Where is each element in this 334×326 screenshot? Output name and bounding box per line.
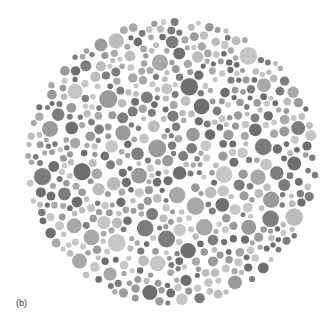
plate-dot bbox=[118, 99, 127, 108]
plate-dot bbox=[73, 183, 80, 190]
plate-dot bbox=[33, 154, 39, 160]
plate-dot bbox=[127, 64, 134, 71]
plate-dot bbox=[169, 187, 185, 203]
plate-dot bbox=[230, 235, 237, 242]
plate-dot bbox=[218, 185, 230, 197]
plate-dot bbox=[222, 226, 229, 233]
plate-dot bbox=[143, 53, 148, 58]
plate-dot bbox=[35, 113, 43, 121]
plate-dot bbox=[192, 51, 203, 62]
plate-dot bbox=[295, 178, 303, 186]
plate-dot bbox=[141, 60, 148, 67]
plate-dot bbox=[59, 169, 65, 175]
plate-dot bbox=[228, 47, 234, 53]
plate-dot bbox=[105, 191, 111, 197]
plate-dot bbox=[191, 162, 196, 167]
plate-dot bbox=[95, 112, 103, 120]
plate-dot bbox=[294, 98, 303, 107]
plate-dot bbox=[188, 226, 194, 232]
plate-dot bbox=[61, 94, 67, 100]
plate-dot bbox=[201, 248, 209, 256]
plate-dot bbox=[111, 50, 118, 57]
plate-dot bbox=[95, 276, 102, 283]
plate-dot bbox=[176, 239, 183, 246]
plate-dot bbox=[147, 165, 154, 172]
plate-dot bbox=[225, 35, 231, 41]
plate-dot bbox=[90, 262, 100, 272]
plate-dot bbox=[124, 44, 130, 50]
plate-dot bbox=[234, 62, 240, 68]
plate-dot bbox=[241, 220, 256, 235]
plate-dot bbox=[47, 90, 57, 100]
plate-dot bbox=[90, 71, 100, 81]
plate-dot bbox=[247, 183, 254, 190]
plate-dot bbox=[152, 55, 168, 71]
plate-dot bbox=[268, 96, 273, 101]
plate-dot bbox=[195, 273, 200, 278]
plate-dot bbox=[67, 205, 73, 211]
plate-dot bbox=[93, 245, 102, 254]
plate-dot bbox=[149, 173, 154, 178]
plate-dot bbox=[237, 148, 247, 158]
plate-dot bbox=[294, 147, 300, 153]
plate-dot bbox=[36, 132, 42, 138]
plate-dot bbox=[264, 111, 273, 120]
plate-dot bbox=[254, 233, 263, 242]
plate-dot bbox=[80, 244, 86, 250]
plate-dot bbox=[287, 157, 301, 171]
plate-dot bbox=[132, 295, 139, 302]
plate-dot bbox=[264, 246, 270, 252]
plate-dot bbox=[187, 197, 205, 215]
plate-dot bbox=[163, 95, 169, 101]
plate-dot bbox=[129, 23, 138, 32]
plate-dot bbox=[116, 87, 124, 95]
plate-dot bbox=[238, 170, 247, 179]
plate-dot bbox=[268, 235, 274, 241]
plate-dot bbox=[150, 235, 156, 241]
plate-dot bbox=[204, 50, 212, 58]
plate-dot bbox=[105, 124, 112, 131]
plate-dot bbox=[205, 59, 210, 64]
plate-dot bbox=[40, 217, 47, 224]
plate-dot bbox=[186, 215, 192, 221]
plate-dot bbox=[268, 229, 273, 234]
plate-dot bbox=[195, 117, 203, 125]
plate-dot bbox=[212, 247, 218, 253]
plate-dot bbox=[90, 94, 96, 100]
plate-dot bbox=[264, 101, 270, 107]
plate-dot bbox=[207, 288, 213, 294]
plate-dot bbox=[37, 201, 43, 207]
plate-dot bbox=[144, 278, 150, 284]
plate-dot bbox=[153, 42, 159, 48]
plate-dot bbox=[198, 151, 203, 156]
plate-dot bbox=[83, 110, 91, 118]
color-vision-plate bbox=[0, 0, 334, 326]
plate-dot bbox=[234, 111, 242, 119]
plate-dots bbox=[25, 18, 318, 306]
plate-dot bbox=[167, 256, 172, 261]
plate-dot bbox=[115, 280, 122, 287]
plate-dot bbox=[96, 255, 101, 260]
plate-dot bbox=[271, 120, 277, 126]
plate-dot bbox=[101, 52, 108, 59]
panel-label: (b) bbox=[16, 298, 27, 308]
plate-dot bbox=[29, 160, 34, 165]
plate-dot bbox=[107, 177, 121, 191]
plate-dot bbox=[194, 293, 204, 303]
plate-dot bbox=[262, 211, 279, 228]
plate-dot bbox=[227, 67, 233, 73]
plate-dot bbox=[148, 140, 166, 158]
plate-dot bbox=[205, 187, 217, 199]
plate-dot bbox=[164, 176, 173, 185]
plate-dot bbox=[119, 169, 127, 177]
plate-dot bbox=[151, 101, 158, 108]
plate-dot bbox=[229, 140, 236, 147]
plate-dot bbox=[144, 197, 152, 205]
plate-dot bbox=[92, 143, 98, 149]
plate-dot bbox=[226, 249, 232, 255]
plate-dot bbox=[167, 269, 174, 276]
plate-dot bbox=[104, 267, 117, 280]
plate-dot bbox=[108, 227, 114, 233]
plate-dot bbox=[255, 189, 264, 198]
plate-dot bbox=[291, 136, 299, 144]
